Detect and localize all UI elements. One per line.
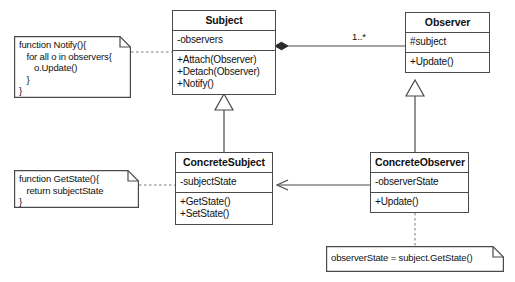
edge-generalization-subject bbox=[215, 94, 233, 152]
class-member: -observerState bbox=[375, 176, 464, 188]
edge-generalization-observer bbox=[406, 80, 424, 152]
multiplicity-label-observer: 1..* bbox=[352, 31, 366, 42]
class-attributes-subject: -observers bbox=[173, 31, 275, 51]
class-box-concrete-observer[interactable]: ConcreteObserver -observerState +Update(… bbox=[370, 152, 469, 213]
class-member: -subjectState bbox=[180, 176, 268, 188]
class-name-observer: Observer bbox=[406, 13, 489, 33]
class-operations-subject: +Attach(Observer) +Detach(Observer) +Not… bbox=[173, 51, 275, 94]
association-arrowhead bbox=[277, 180, 288, 190]
note-text-getstate: function GetState(){ return subjectState… bbox=[19, 173, 135, 208]
class-member: #subject bbox=[410, 36, 485, 48]
note-observerstate[interactable]: observerState = subject.GetState() bbox=[326, 246, 504, 272]
generalization-triangle-subject bbox=[215, 94, 233, 110]
class-name-subject: Subject bbox=[173, 11, 275, 31]
class-box-subject[interactable]: Subject -observers +Attach(Observer) +De… bbox=[172, 10, 276, 95]
class-attributes-concrete-observer: -observerState bbox=[371, 173, 468, 193]
class-name-concrete-observer: ConcreteObserver bbox=[371, 153, 468, 173]
class-operations-concrete-observer: +Update() bbox=[371, 193, 468, 212]
class-box-concrete-subject[interactable]: ConcreteSubject -subjectState +GetState(… bbox=[175, 152, 273, 225]
edge-subject-observer bbox=[275, 42, 405, 50]
class-attributes-observer: #subject bbox=[406, 33, 489, 53]
class-member: +SetState() bbox=[180, 208, 268, 220]
uml-diagram-canvas: ConcreteSubject (association w/ open arr… bbox=[0, 0, 515, 282]
class-member: +Update() bbox=[375, 196, 464, 208]
class-operations-concrete-subject: +GetState() +SetState() bbox=[176, 193, 272, 224]
class-member: -observers bbox=[177, 34, 271, 46]
note-text-observerstate: observerState = subject.GetState() bbox=[331, 252, 500, 264]
class-attributes-concrete-subject: -subjectState bbox=[176, 173, 272, 193]
class-box-observer[interactable]: Observer #subject +Update() bbox=[405, 12, 490, 73]
generalization-triangle-observer bbox=[406, 80, 424, 96]
class-member: +Detach(Observer) bbox=[177, 66, 271, 78]
note-text-notify: function Notify(){ for all o in observer… bbox=[19, 39, 127, 97]
edge-concreteobserver-concretesubject bbox=[277, 180, 370, 190]
composition-diamond bbox=[275, 42, 288, 50]
class-member: +GetState() bbox=[180, 196, 268, 208]
class-operations-observer: +Update() bbox=[406, 53, 489, 72]
note-getstate[interactable]: function GetState(){ return subjectState… bbox=[14, 170, 139, 208]
class-name-concrete-subject: ConcreteSubject bbox=[176, 153, 272, 173]
note-notify[interactable]: function Notify(){ for all o in observer… bbox=[14, 36, 131, 98]
class-member: +Update() bbox=[410, 56, 485, 68]
class-member: +Notify() bbox=[177, 78, 271, 90]
class-member: +Attach(Observer) bbox=[177, 54, 271, 66]
